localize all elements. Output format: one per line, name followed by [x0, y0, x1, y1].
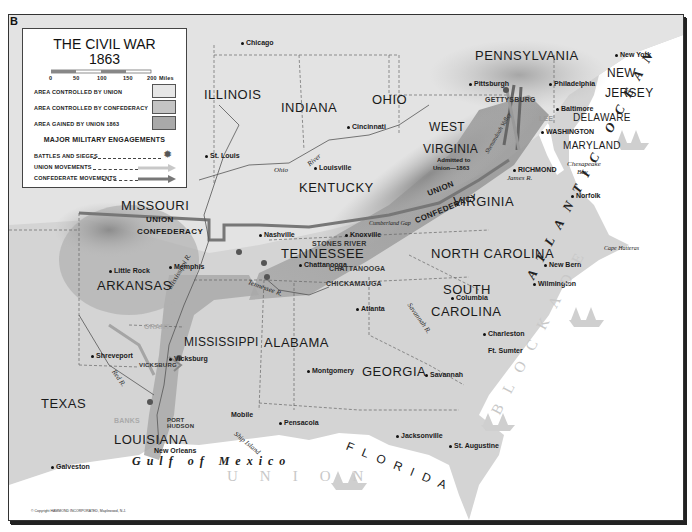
city-mobile: Mobile [231, 411, 253, 418]
battle-gettysburg: GETTYSBURG [485, 96, 536, 103]
city-st-louis: St. Louis [205, 152, 240, 159]
city-pensacola: Pensacola [279, 419, 319, 426]
state-georgia: GEORGIA [362, 365, 426, 378]
scale-tick-100: 100 [97, 75, 107, 81]
city-new-orleans: New Orleans [154, 447, 196, 454]
state-illinois: ILLINOIS [204, 88, 261, 101]
city-washington: WASHINGTON [541, 128, 594, 135]
label-gulf-of-mexico: Gulf of Mexico [132, 455, 291, 467]
city-charleston: Charleston [483, 330, 525, 337]
city-vicksburg: Vicksburg [169, 355, 208, 362]
city-louisville: Louisville [314, 164, 351, 171]
city-shreveport: Shreveport [91, 352, 133, 359]
city-jacksonville: Jacksonville [396, 432, 443, 439]
battle-port-hudson: PORT HUDSON [167, 417, 197, 429]
battle-chickamauga: CHICKAMAUGA [326, 280, 382, 287]
battle-chattanooga: CHATTANOOGA [329, 265, 385, 272]
state-missouri: MISSOURI [121, 199, 189, 212]
copyright: © Copyright HAMMOND INCORPORATED, Maplew… [31, 509, 126, 513]
river-james: James R. [507, 175, 532, 182]
scale-tick-50: 50 [73, 75, 80, 81]
state-texas: TEXAS [41, 397, 86, 410]
city-little-rock: Little Rock [109, 267, 150, 274]
state-alabama: ALABAMA [264, 336, 329, 349]
legend: THE CIVIL WAR 1863 0 50 100 150 200 Mile… [22, 28, 187, 188]
state-arkansas: ARKANSAS [97, 279, 172, 292]
label-lee: LEE [539, 115, 553, 122]
legend-area-gained: AREA GAINED BY UNION 1863 [34, 121, 119, 127]
legend-area-confederacy: AREA CONTROLLED BY CONFEDERACY [34, 105, 148, 111]
label-west-confederacy: CONFEDERACY [137, 228, 203, 236]
state-west-virginia-line1: WEST [429, 121, 465, 133]
city-pittsburgh: Pittsburgh [469, 80, 509, 87]
label-union-blockade: UNION [227, 469, 385, 484]
legend-battles: BATTLES AND SIEGES [34, 153, 98, 159]
city-cincinnati: Cincinnati [347, 123, 386, 130]
city-chicago: Chicago [241, 39, 274, 46]
city-atlanta: Atlanta [356, 305, 385, 312]
swatch-confederacy [152, 100, 176, 114]
light-arrow-icon [138, 164, 178, 172]
city-baltimore: Baltimore [556, 105, 593, 112]
city-nashville: Nashville [259, 231, 295, 238]
battle-vicksburg: VICKSBURG [139, 362, 177, 368]
city-knoxville: Knoxville [345, 231, 381, 238]
wv-admitted-note-2: Union—1863 [433, 165, 469, 171]
state-kentucky: KENTUCKY [299, 181, 374, 194]
legend-union-movements: UNION MOVEMENTS [34, 164, 92, 170]
scale-unit: Miles [159, 75, 174, 81]
label-west-union: UNION [146, 216, 174, 224]
city-galveston: Galveston [51, 463, 90, 470]
scale-tick-0: 0 [49, 75, 52, 81]
label-grant: GRANT [144, 323, 170, 330]
label-chesapeake: Chesapeake [567, 161, 601, 168]
legend-leader [93, 169, 138, 170]
battle-stones-river: STONES RIVER [312, 240, 366, 247]
state-south-carolina-line2: CAROLINA [431, 305, 501, 318]
city-philadelphia: Philadelphia [549, 80, 595, 87]
city-savannah: Savannah [425, 371, 463, 378]
legend-leader [103, 180, 138, 181]
scale-tick-200: 200 [147, 75, 157, 81]
label-banks: BANKS [114, 417, 140, 424]
legend-engagements-heading: MAJOR MILITARY ENGAGEMENTS [23, 136, 186, 143]
city-st-augustine: St. Augustine [449, 442, 499, 449]
legend-leader [93, 158, 161, 159]
state-mississippi: MISSISSIPPI [184, 336, 259, 348]
wv-admitted-note-1: Admitted to [437, 157, 470, 163]
panel-letter: B [10, 15, 18, 27]
city-montgomery: Montgomery [307, 367, 354, 374]
state-indiana: INDIANA [281, 101, 337, 114]
swatch-union [152, 84, 176, 98]
state-tennessee: TENNESSEE [281, 247, 364, 260]
state-west-virginia-line2: VIRGINIA [423, 143, 478, 155]
legend-year: 1863 [23, 51, 186, 67]
state-pennsylvania: PENNSYLVANIA [475, 49, 579, 62]
city-columbia: Columbia [451, 294, 488, 301]
state-ohio: OHIO [372, 93, 407, 106]
city-richmond: RICHMOND [513, 166, 557, 173]
burst-icon: ✹ [163, 148, 172, 161]
label-cumberland-gap: Cumberland Gap [369, 220, 411, 226]
river-ohio: Ohio [274, 167, 288, 174]
legend-title: THE CIVIL WAR [23, 36, 186, 52]
legend-area-union: AREA CONTROLLED BY UNION [34, 89, 122, 95]
label-cape-hatteras: Cape Hatteras [604, 245, 639, 251]
dark-arrow-icon [138, 175, 178, 183]
label-bay: Bay [577, 169, 588, 176]
state-louisiana: LOUISIANA [114, 433, 188, 446]
scale-tick-150: 150 [123, 75, 133, 81]
swatch-gained [152, 116, 176, 130]
